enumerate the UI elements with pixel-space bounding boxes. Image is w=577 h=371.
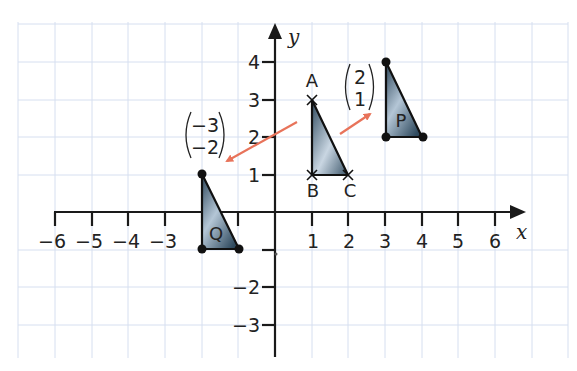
vertex-dot-icon [198,245,207,254]
vector-q-top: −3 [191,114,219,136]
svg-text:−3: −3 [149,230,177,252]
shape-label-q: Q [209,223,223,244]
svg-text:4: 4 [248,51,260,73]
svg-text:−4: −4 [112,230,140,252]
svg-text:1: 1 [307,230,319,252]
y-tick-labels: 4 3 2 1 −2 −3 [232,51,260,336]
svg-text:2: 2 [343,230,355,252]
translation-arrow-to-p-icon [340,114,370,134]
y-axis-label: y [287,25,300,49]
svg-text:−6: −6 [38,230,66,252]
vertex-label-a: A [306,70,319,91]
coordinate-diagram: x y −6 −5 −4 −3 1 2 3 4 5 6 4 3 2 1 −2 −… [0,0,577,371]
vector-q-bottom: −2 [191,136,219,158]
vector-p-bottom: 1 [354,88,366,110]
x-tick-labels: −6 −5 −4 −3 1 2 3 4 5 6 [38,230,501,252]
svg-text:6: 6 [489,230,501,252]
svg-text:3: 3 [379,230,391,252]
vertex-dot-icon [382,133,391,142]
svg-text:1: 1 [248,164,260,186]
vertex-label-b: B [307,180,319,201]
vertex-label-c: C [344,180,357,201]
vertex-dot-icon [235,245,244,254]
axes [54,23,526,357]
vector-to-q: −3 −2 [186,112,224,158]
svg-text:4: 4 [416,230,428,252]
svg-text:−5: −5 [75,230,103,252]
shape-label-p: P [396,110,407,131]
vertex-dot-icon [382,58,391,67]
triangle-abc: A B C [306,70,356,201]
svg-text:−2: −2 [232,276,260,298]
vector-to-p: 2 1 [346,64,374,110]
x-axis-label: x [516,220,527,244]
svg-text:5: 5 [452,230,464,252]
y-axis-arrow-icon [268,23,282,39]
grid [18,22,568,358]
vector-p-top: 2 [354,66,366,88]
svg-text:3: 3 [248,89,260,111]
vertex-dot-icon [198,170,207,179]
svg-text:−3: −3 [232,314,260,336]
x-axis-arrow-icon [510,205,526,219]
vertex-dot-icon [419,133,428,142]
